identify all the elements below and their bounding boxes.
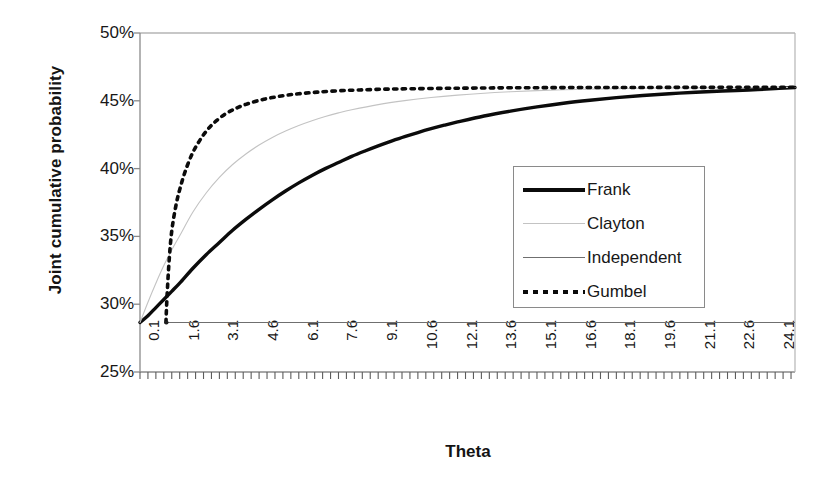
- legend-item-independent[interactable]: Independent: [514, 241, 704, 275]
- chart-figure: Joint cumulative probability 50%45%40%35…: [0, 0, 822, 484]
- legend-item-label: Frank: [587, 180, 630, 200]
- legend-item-gumbel[interactable]: Gumbel: [514, 275, 704, 309]
- legend-item-label: Clayton: [587, 214, 645, 234]
- legend-item-clayton[interactable]: Clayton: [514, 207, 704, 241]
- legend-item-label: Independent: [587, 248, 682, 268]
- baseline-origin-marker: [164, 320, 168, 324]
- legend-item-label: Gumbel: [587, 282, 647, 302]
- thick-solid-line-icon: [523, 184, 585, 196]
- dotted-line-icon: [523, 286, 585, 298]
- thin-light-line-icon: [523, 218, 585, 230]
- thin-gray-line-icon: [523, 252, 585, 264]
- chart-legend: FrankClaytonIndependentGumbel: [513, 166, 705, 308]
- legend-item-frank[interactable]: Frank: [514, 173, 704, 207]
